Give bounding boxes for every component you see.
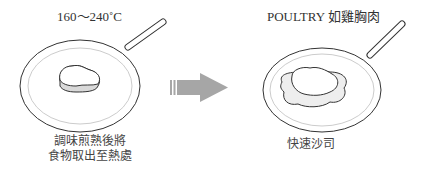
arrow-right-icon (170, 73, 228, 102)
left-pan-handle (128, 22, 163, 47)
left-caption: 調味煎熟後將 食物取出至熱處 (40, 134, 140, 164)
left-caption-line1: 調味煎熟後將 (40, 134, 140, 149)
poultry-label: POULTRY 如雞胸肉 (267, 6, 380, 25)
right-caption: 快速沙司 (287, 134, 335, 151)
left-caption-line2: 食物取出至熱處 (40, 149, 140, 164)
temperature-label: 160～240˚C (57, 6, 122, 25)
right-pan (263, 24, 402, 132)
right-pan-handle (370, 24, 402, 55)
left-pan (20, 22, 163, 132)
